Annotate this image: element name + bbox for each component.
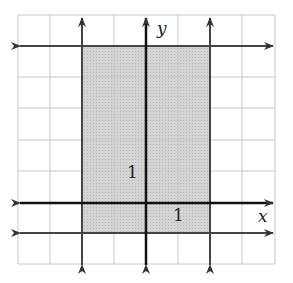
y-unit-label: 1 — [127, 162, 138, 182]
x-unit-label: 1 — [173, 205, 184, 225]
axes — [20, 18, 273, 265]
y-axis-label: y — [156, 18, 167, 38]
x-axis-label: x — [258, 206, 268, 226]
coordinate-plane: y x 1 1 — [0, 0, 293, 283]
